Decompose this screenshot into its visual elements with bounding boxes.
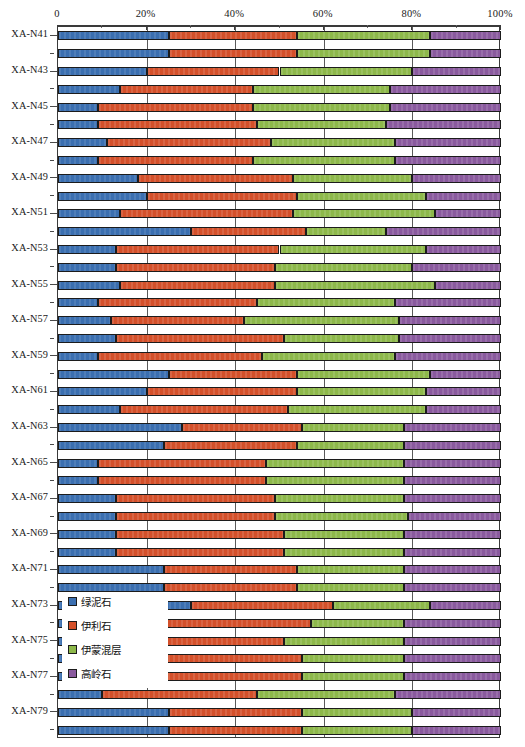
bar-segment[interactable] (390, 103, 501, 112)
bar-segment[interactable] (280, 67, 413, 76)
bar-segment[interactable] (297, 192, 425, 201)
bar-segment[interactable] (58, 387, 147, 396)
bar-segment[interactable] (58, 31, 169, 40)
bar-segment[interactable] (333, 601, 430, 610)
bar-segment[interactable] (275, 281, 434, 290)
bar-segment[interactable] (58, 245, 116, 254)
bar-segment[interactable] (412, 174, 501, 183)
bar-segment[interactable] (297, 565, 403, 574)
bar-segment[interactable] (169, 708, 302, 717)
bar-segment[interactable] (191, 227, 306, 236)
bar-segment[interactable] (280, 245, 426, 254)
bar-segment[interactable] (257, 120, 385, 129)
bar-segment[interactable] (58, 209, 120, 218)
bar-segment[interactable] (404, 565, 501, 574)
bar-segment[interactable] (58, 67, 147, 76)
bar-segment[interactable] (395, 352, 501, 361)
bar-segment[interactable] (302, 423, 404, 432)
legend-item-illite-smectite[interactable]: 伊蒙混层 (68, 642, 121, 657)
bar-segment[interactable] (58, 334, 116, 343)
bar-segment[interactable] (58, 120, 98, 129)
bar-segment[interactable] (426, 405, 501, 414)
bar-segment[interactable] (98, 459, 266, 468)
bar-segment[interactable] (293, 209, 435, 218)
bar-segment[interactable] (404, 672, 501, 681)
bar-segment[interactable] (426, 387, 501, 396)
bar-segment[interactable] (404, 583, 501, 592)
bar-segment[interactable] (98, 103, 253, 112)
bar-segment[interactable] (58, 726, 169, 735)
bar-segment[interactable] (404, 476, 501, 485)
bar-segment[interactable] (138, 174, 293, 183)
bar-segment[interactable] (164, 565, 297, 574)
bar-segment[interactable] (116, 334, 284, 343)
bar-segment[interactable] (147, 387, 298, 396)
bar-segment[interactable] (386, 227, 501, 236)
bar-segment[interactable] (98, 156, 253, 165)
bar-segment[interactable] (58, 263, 116, 272)
bar-segment[interactable] (435, 209, 501, 218)
bar-segment[interactable] (266, 459, 403, 468)
bar-segment[interactable] (404, 441, 501, 450)
bar-segment[interactable] (412, 726, 501, 735)
bar-segment[interactable] (98, 298, 257, 307)
bar-segment[interactable] (58, 459, 98, 468)
bar-segment[interactable] (58, 316, 111, 325)
bar-segment[interactable] (399, 316, 501, 325)
bar-segment[interactable] (116, 548, 284, 557)
legend-item-illite[interactable]: 伊利石 (68, 618, 111, 633)
bar-segment[interactable] (147, 192, 298, 201)
bar-segment[interactable] (98, 120, 257, 129)
bar-segment[interactable] (58, 352, 98, 361)
bar-segment[interactable] (426, 245, 501, 254)
bar-segment[interactable] (293, 174, 413, 183)
bar-segment[interactable] (98, 476, 266, 485)
bar-segment[interactable] (311, 619, 404, 628)
bar-segment[interactable] (164, 583, 297, 592)
bar-segment[interactable] (102, 690, 257, 699)
bar-segment[interactable] (116, 512, 275, 521)
bar-segment[interactable] (169, 31, 297, 40)
bar-segment[interactable] (120, 405, 288, 414)
bar-segment[interactable] (58, 156, 98, 165)
bar-segment[interactable] (262, 352, 395, 361)
bar-segment[interactable] (107, 138, 271, 147)
bar-segment[interactable] (430, 370, 501, 379)
bar-segment[interactable] (297, 31, 430, 40)
bar-segment[interactable] (58, 370, 169, 379)
bar-segment[interactable] (58, 298, 98, 307)
bar-segment[interactable] (297, 583, 403, 592)
bar-segment[interactable] (257, 690, 394, 699)
bar-segment[interactable] (412, 263, 501, 272)
bar-segment[interactable] (58, 174, 138, 183)
bar-segment[interactable] (399, 334, 501, 343)
bar-segment[interactable] (58, 405, 120, 414)
bar-segment[interactable] (395, 156, 501, 165)
bar-segment[interactable] (182, 423, 302, 432)
bar-segment[interactable] (111, 316, 244, 325)
bar-segment[interactable] (404, 423, 501, 432)
bar-segment[interactable] (169, 370, 297, 379)
bar-segment[interactable] (404, 637, 501, 646)
bar-segment[interactable] (306, 227, 386, 236)
bar-segment[interactable] (120, 209, 293, 218)
bar-segment[interactable] (404, 459, 501, 468)
bar-segment[interactable] (253, 85, 390, 94)
bar-segment[interactable] (58, 512, 116, 521)
bar-segment[interactable] (275, 512, 408, 521)
bar-segment[interactable] (120, 281, 275, 290)
bar-segment[interactable] (275, 494, 403, 503)
bar-segment[interactable] (390, 85, 501, 94)
bar-segment[interactable] (58, 192, 147, 201)
bar-segment[interactable] (58, 690, 102, 699)
bar-segment[interactable] (302, 726, 413, 735)
bar-segment[interactable] (408, 512, 501, 521)
bar-segment[interactable] (58, 49, 169, 58)
bar-segment[interactable] (58, 227, 191, 236)
bar-segment[interactable] (275, 263, 412, 272)
bar-segment[interactable] (430, 49, 501, 58)
bar-segment[interactable] (58, 476, 98, 485)
bar-segment[interactable] (58, 138, 107, 147)
bar-segment[interactable] (58, 583, 164, 592)
bar-segment[interactable] (257, 298, 394, 307)
